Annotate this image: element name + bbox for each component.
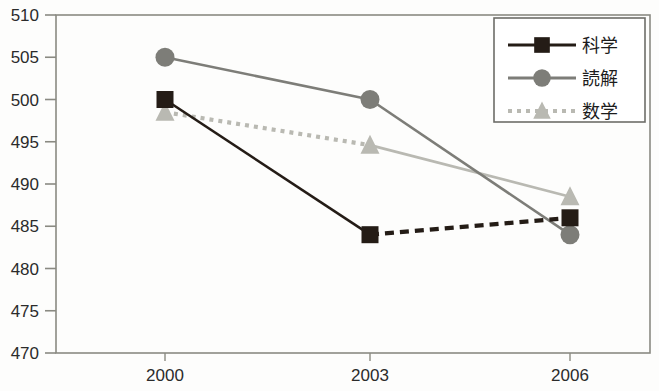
data-point-marker-circle bbox=[361, 90, 380, 109]
y-axis-tick-label: 490 bbox=[11, 175, 39, 194]
y-axis-tick-label: 485 bbox=[11, 217, 39, 236]
series-line-segment bbox=[165, 100, 370, 235]
y-axis-tick-label: 480 bbox=[11, 260, 39, 279]
series-line-segment bbox=[165, 112, 370, 145]
chart-container: 470475480485490495500505510 200020032006… bbox=[0, 0, 659, 391]
series-line-segment bbox=[165, 57, 370, 99]
y-axis-tick-label: 495 bbox=[11, 133, 39, 152]
data-point-marker-square bbox=[157, 91, 174, 108]
line-chart: 470475480485490495500505510 200020032006… bbox=[0, 0, 659, 391]
x-axis-tick-label: 2003 bbox=[351, 366, 389, 385]
x-axis: 200020032006 bbox=[146, 353, 589, 385]
legend-item-label: 読解 bbox=[582, 68, 618, 89]
series-line-segment bbox=[370, 218, 570, 235]
y-axis-tick-label: 500 bbox=[11, 91, 39, 110]
series-line-segment bbox=[370, 145, 570, 197]
x-axis-tick-label: 2000 bbox=[146, 366, 184, 385]
y-axis-tick-label: 470 bbox=[11, 344, 39, 363]
data-point-marker-circle bbox=[533, 69, 550, 86]
legend-item-label: 数学 bbox=[582, 101, 618, 122]
data-point-marker-circle bbox=[561, 225, 580, 244]
y-axis-tick-label: 510 bbox=[11, 6, 39, 25]
data-point-marker-circle bbox=[156, 48, 175, 67]
data-point-marker-square bbox=[362, 226, 379, 243]
x-axis-tick-label: 2006 bbox=[551, 366, 589, 385]
legend-box bbox=[494, 18, 645, 122]
data-point-marker-square bbox=[534, 37, 550, 53]
y-axis-tick-label: 475 bbox=[11, 302, 39, 321]
data-point-marker-square bbox=[562, 209, 579, 226]
y-axis: 470475480485490495500505510 bbox=[11, 6, 56, 363]
legend-item-label: 科学 bbox=[582, 35, 618, 56]
y-axis-tick-label: 505 bbox=[11, 48, 39, 67]
chart-legend: 科学読解数学 bbox=[494, 18, 645, 122]
